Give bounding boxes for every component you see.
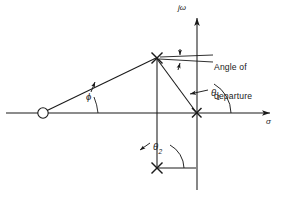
angle-of-departure-line2: departure [214,92,252,102]
angle-of-departure-line1: Angle of [214,63,252,73]
phi-angle-label: ϕ [86,92,91,103]
theta2-subscript: 2 [158,148,162,155]
sigma-axis-label: σ [266,118,271,127]
open-loop-zero-marker [38,108,48,118]
theta1-leader-arrow [190,90,208,94]
j-omega-axis-label: jω [178,4,186,13]
theta2-arc [170,145,184,168]
vector-upper-pole-to-real-pole [157,59,196,112]
vector-zero-to-upper-pole [44,58,156,112]
departure-tick-arrow-lower [178,63,180,70]
angle-of-departure-annotation: Angle of departure [214,44,252,121]
phi-leader-arrow [91,82,95,92]
theta2-angle-label: θ2 [153,142,162,154]
departure-leader-line-upper [160,55,213,57]
phi-arc [94,97,98,113]
pole-zero-diagram: jω σ ϕ θ1 θ2 Angle of departure [0,0,292,198]
departure-leader-line-lower [159,59,213,62]
theta2-leader-arrow [140,143,150,150]
